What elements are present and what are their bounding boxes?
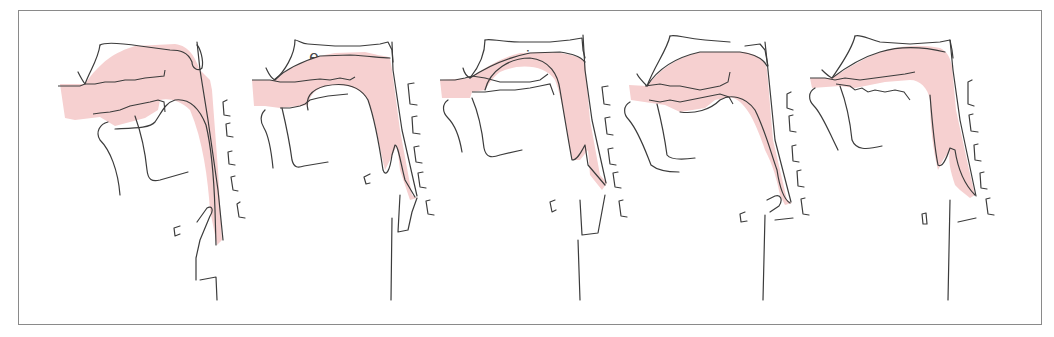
- vertebra-4: [980, 172, 987, 189]
- vocal-tract-o-diagram: [615, 0, 815, 300]
- vertebra-2: [789, 115, 796, 132]
- jaw-outline: [261, 110, 273, 168]
- vocal-tract-a-diagram: [40, 0, 240, 300]
- hyoid-mark: [740, 212, 747, 222]
- epiglottis-outline: [391, 195, 417, 300]
- vocal-tract-fill: [60, 44, 222, 245]
- vertebra-2: [969, 114, 978, 132]
- vocal-tract-u-diagram: [800, 0, 1000, 300]
- hyoid-mark: [922, 213, 927, 224]
- hyoid-mark: [550, 200, 556, 212]
- jaw-outline: [810, 88, 838, 150]
- vertebra-3: [228, 151, 235, 165]
- vocal-tract-fill: [629, 52, 792, 205]
- panel-vowel-o: o: [615, 0, 815, 337]
- vocal-tract-fill: [252, 52, 417, 200]
- vertebra-1: [787, 92, 793, 110]
- vocal-tract-fill: [810, 46, 975, 198]
- jaw-outline: [98, 122, 120, 195]
- vertebra-1: [602, 86, 610, 105]
- epiglottis-outline: [578, 195, 605, 300]
- chin-outline: [472, 98, 522, 157]
- jaw-outline: [444, 100, 463, 152]
- panel-vowel-i: i: [430, 0, 630, 337]
- vertebra-1: [968, 80, 974, 106]
- epiglottis-outline: [948, 200, 976, 300]
- panel-vowel-u: u: [800, 0, 1000, 337]
- chin-outline: [135, 116, 188, 181]
- vertebra-5: [986, 198, 994, 215]
- hyoid-mark: [174, 226, 180, 236]
- panel-vowel-a: a: [40, 0, 240, 337]
- vertebra-4: [231, 176, 238, 191]
- vertebra-1: [223, 100, 230, 116]
- vertebra-3: [414, 146, 422, 163]
- panel-vowel-e: e: [240, 0, 440, 337]
- chin-outline: [282, 108, 328, 167]
- vertebra-3: [792, 145, 799, 162]
- vocal-tract-i-diagram: [430, 0, 630, 300]
- vertebra-4: [418, 172, 426, 188]
- jaw-outline: [625, 102, 679, 172]
- vocal-tract-e-diagram: [240, 0, 440, 300]
- hyoid-mark: [364, 174, 370, 184]
- vertebra-3: [974, 144, 981, 161]
- vertebra-2: [226, 123, 233, 137]
- epiglottis-outline: [763, 196, 793, 300]
- vertebra-2: [605, 117, 613, 135]
- vertebra-1: [408, 83, 417, 105]
- chin-outline: [840, 86, 882, 148]
- vertebra-2: [412, 116, 420, 134]
